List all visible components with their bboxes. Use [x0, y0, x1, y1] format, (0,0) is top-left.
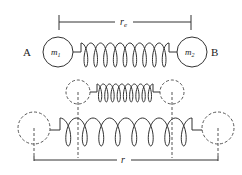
atom-a-label: A	[23, 46, 31, 58]
guide-lines	[34, 92, 218, 158]
distance-label: r	[121, 154, 125, 165]
equilibrium-spring	[73, 43, 177, 67]
mass-1-label: m1	[51, 47, 61, 58]
stretched-spring	[50, 118, 202, 146]
spring-diagram: re A B m1 m2 r	[0, 0, 242, 175]
atom-b-label: B	[211, 46, 218, 58]
distance-bracket	[34, 156, 218, 161]
compressed-spring	[90, 84, 160, 102]
equilibrium-distance-label: re	[120, 16, 127, 29]
mass-2-label: m2	[185, 47, 195, 58]
